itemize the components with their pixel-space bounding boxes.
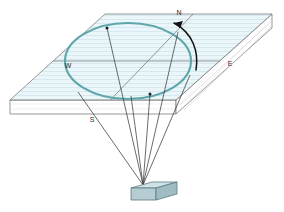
- device-front-face: [131, 188, 156, 200]
- radar-scan-diagram: N S W E: [0, 0, 284, 212]
- diagram-canvas: N S W E: [0, 0, 284, 212]
- slab-front-face: [10, 100, 176, 114]
- north-label: N: [176, 9, 181, 16]
- south-label: S: [90, 116, 95, 123]
- west-label: W: [65, 62, 72, 69]
- antenna-device: [131, 182, 177, 200]
- east-label: E: [228, 60, 233, 67]
- ray-endpoint-marker: [106, 27, 109, 30]
- ray-endpoint-marker: [149, 93, 152, 96]
